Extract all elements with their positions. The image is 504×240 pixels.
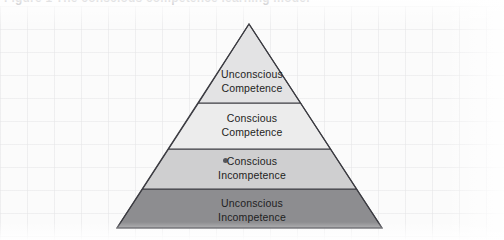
tier-1-line-1: Unconscious [0, 68, 504, 82]
tier-3-line-2: Incompetence [0, 169, 504, 183]
tier-4-line-2: Incompetence [0, 211, 504, 225]
pyramid-tier-2-label: Conscious Competence [0, 112, 504, 139]
tier-1-line-2: Competence [0, 82, 504, 96]
tier-2-line-2: Competence [0, 126, 504, 140]
pyramid-tier-4-label: Unconscious Incompetence [0, 197, 504, 224]
figure-canvas: Figure 1 The conscious competence learni… [0, 0, 504, 240]
tier-4-line-1: Unconscious [0, 197, 504, 211]
tier-3-line-1: Conscious [0, 155, 504, 169]
pyramid-tier-3-label: Conscious Incompetence [0, 155, 504, 182]
tier-2-line-1: Conscious [0, 112, 504, 126]
pyramid-tier-1-label: Unconscious Competence [0, 68, 504, 95]
